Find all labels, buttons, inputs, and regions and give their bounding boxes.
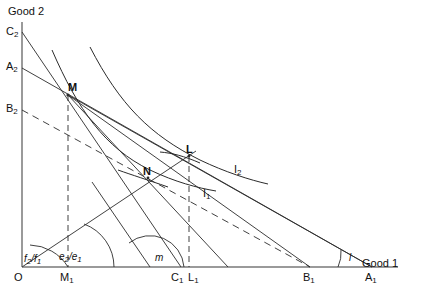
axis-label-c2-sub: 2 xyxy=(14,30,18,39)
point-label-n: N xyxy=(143,166,151,177)
angle-arc-e-ratio xyxy=(84,224,114,267)
curve-label-i2: I2 xyxy=(234,164,242,175)
point-label-l: L xyxy=(186,144,193,155)
axis-label-b2: B2 xyxy=(6,103,18,114)
angle-label-f-ratio: f2/f1 xyxy=(24,254,41,264)
y-axis-title: Good 2 xyxy=(8,6,44,17)
axis-label-b2-sub: 2 xyxy=(13,107,17,116)
axis-label-a2-sub: 2 xyxy=(13,65,17,74)
axis-label-b1-sub: 1 xyxy=(310,276,314,285)
angle-label-m: m xyxy=(155,253,163,263)
axis-label-c1-letter: C xyxy=(171,271,179,283)
axis-label-c2-letter: C xyxy=(6,25,14,37)
x-axis-title: Good 1 xyxy=(362,258,398,269)
angle-f-den-sub: 1 xyxy=(37,257,41,266)
axis-label-c1-sub: 1 xyxy=(179,276,183,285)
curve-label-i2-sub: 2 xyxy=(237,168,241,177)
axis-label-m1: M1 xyxy=(60,272,74,283)
axis-label-b1: B1 xyxy=(303,272,315,283)
point-marker-n xyxy=(147,177,150,180)
axis-label-l1-sub: 1 xyxy=(194,276,198,285)
point-marker-l xyxy=(188,155,191,158)
angle-e-den-sub: 1 xyxy=(77,255,81,264)
indifference-curve-i1 xyxy=(52,50,216,191)
angle-e-num: e xyxy=(59,251,65,262)
curve-label-i1: I1 xyxy=(203,188,211,199)
ray-m-to-a1 xyxy=(68,95,372,267)
axis-label-m1-sub: 1 xyxy=(69,276,73,285)
axis-label-c1: C1 xyxy=(171,272,183,283)
angle-arc-l xyxy=(338,250,341,267)
angle-f-num-sub: 2 xyxy=(27,257,31,266)
ray-m-angle xyxy=(92,182,150,267)
axis-label-m1-letter: M xyxy=(60,271,69,283)
axis-label-a1: A1 xyxy=(365,272,377,283)
point-label-m: M xyxy=(68,82,77,93)
angle-label-l: l xyxy=(349,253,351,263)
angle-label-e-ratio: e2/e1 xyxy=(59,252,82,262)
axis-label-a1-sub: 1 xyxy=(372,276,376,285)
axis-label-a2: A2 xyxy=(6,61,18,72)
economics-diagram: Good 2 Good 1 C2 A2 B2 O M1 C1 L1 B1 A1 … xyxy=(0,0,430,292)
point-marker-m xyxy=(66,93,69,96)
origin-label: O xyxy=(14,272,23,283)
angle-e-num-sub: 2 xyxy=(65,255,69,264)
axis-label-c2: C2 xyxy=(6,26,18,37)
budget-line-b-dashed xyxy=(22,110,310,267)
axis-label-l1: L1 xyxy=(188,272,199,283)
curve-label-i1-sub: 1 xyxy=(206,192,210,201)
ray-m-steep xyxy=(68,95,228,267)
diagram-canvas xyxy=(0,0,430,292)
